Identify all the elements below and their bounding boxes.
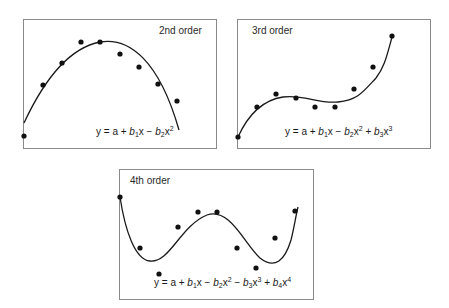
panel-title: 4th order: [130, 175, 170, 186]
panel-4th-order: 4th order y = a + b1x − b2x2 − b3x3 + b4…: [119, 169, 314, 300]
data-points: [117, 194, 297, 276]
eq-text: y = a +: [96, 126, 129, 137]
eq-text: x −: [328, 126, 344, 137]
panel-title: 2nd order: [159, 25, 202, 36]
panel-title: 3rd order: [252, 25, 293, 36]
equation: y = a + b1x − b2x2 − b3x3 + b4x4: [154, 276, 291, 289]
eq-sup: 3: [388, 125, 392, 132]
data-points: [21, 39, 179, 138]
eq-text: +: [261, 277, 272, 288]
fit-curve: [238, 34, 393, 137]
panel-2nd-order: 2nd order y = a + b1x − b2x2: [23, 19, 217, 149]
equation: y = a + b1x − b2x2 + b3x3: [285, 125, 392, 138]
eq-sup: 2: [170, 125, 174, 132]
eq-text: y = a +: [154, 277, 187, 288]
fit-curve: [120, 197, 298, 263]
eq-text: +: [363, 126, 374, 137]
eq-sup: 4: [287, 276, 291, 283]
eq-text: x −: [197, 277, 213, 288]
equation: y = a + b1x − b2x2: [96, 125, 174, 138]
eq-text: −: [232, 277, 243, 288]
panel-3rd-order: 3rd order y = a + b1x − b2x2 + b3x3: [237, 19, 431, 149]
eq-text: x −: [139, 126, 155, 137]
fit-curve: [24, 41, 179, 130]
eq-text: y = a +: [285, 126, 318, 137]
data-points: [235, 33, 394, 139]
